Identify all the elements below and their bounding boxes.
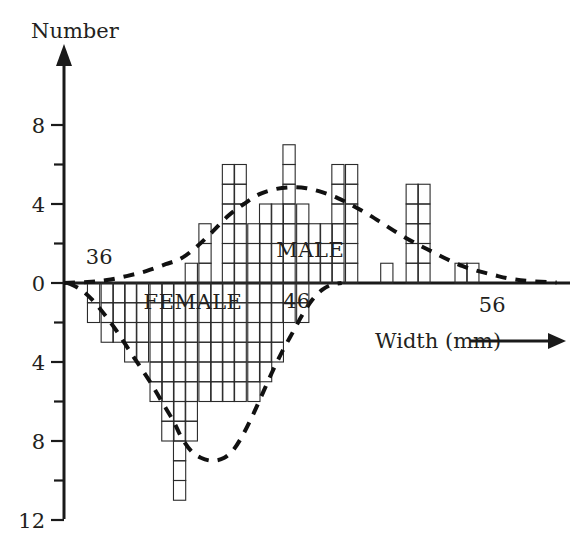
histogram-cell — [136, 342, 148, 362]
chart-annotation-56: 56 — [479, 293, 506, 317]
histogram-cell — [418, 184, 430, 204]
histogram-cell — [260, 204, 272, 224]
histogram-cell — [150, 323, 162, 343]
histogram-cell — [162, 382, 174, 402]
histogram-cell — [271, 283, 283, 303]
histogram-cell — [211, 382, 223, 402]
histogram-cell — [248, 244, 260, 264]
x-axis-label-group: Width (mm) — [375, 329, 566, 353]
histogram-cell — [271, 323, 283, 343]
histogram-cell — [418, 224, 430, 244]
histogram-cell — [113, 283, 125, 303]
histogram-cell — [248, 362, 260, 382]
histogram-cell — [234, 382, 246, 402]
histogram-cell — [162, 362, 174, 382]
histogram-cell — [332, 263, 344, 283]
frequency-curve — [64, 187, 557, 283]
histogram-cell — [406, 184, 418, 204]
arrow-up-icon — [56, 44, 72, 66]
y-axis-ticks — [51, 125, 64, 520]
histogram-cell — [234, 204, 246, 224]
y-axis-label: Number — [31, 19, 120, 43]
histogram-cell — [222, 184, 234, 204]
y-axis-tick-label: 4 — [32, 193, 45, 217]
histogram-cell — [125, 303, 137, 323]
histogram-cell — [271, 303, 283, 323]
histogram-cell — [467, 263, 479, 283]
histogram-cell — [332, 165, 344, 185]
histogram-cell — [418, 263, 430, 283]
histogram-cell — [185, 402, 197, 422]
histogram-cell — [260, 263, 272, 283]
histogram-cell — [234, 362, 246, 382]
histogram-cell — [320, 263, 332, 283]
histogram-cell — [260, 303, 272, 323]
histogram-cell — [222, 244, 234, 264]
histogram-cell — [125, 323, 137, 343]
histogram-cell — [248, 283, 260, 303]
histogram-cell — [101, 283, 113, 303]
histogram-cell — [283, 263, 295, 283]
histogram-cell — [234, 224, 246, 244]
histogram-cell — [234, 323, 246, 343]
histogram-cell — [150, 362, 162, 382]
histogram-cell — [260, 342, 272, 362]
histogram-cell — [87, 303, 99, 323]
histogram-cell — [150, 342, 162, 362]
histogram-cell — [308, 263, 320, 283]
histogram-cell — [406, 244, 418, 264]
back-to-back-histogram-chart: 8404812 Number MALEFEMALE364656 Width (m… — [0, 0, 583, 554]
histogram-cell — [346, 165, 358, 185]
histogram-cell — [234, 165, 246, 185]
histogram-cell — [260, 323, 272, 343]
histogram-cell — [162, 421, 174, 441]
chart-annotation-male: MALE — [276, 238, 344, 262]
histogram-cell — [283, 165, 295, 185]
histogram-cell — [199, 382, 211, 402]
histogram-cell — [113, 303, 125, 323]
histogram-cell — [346, 224, 358, 244]
y-axis-tick-label: 8 — [32, 114, 45, 138]
histogram-cell — [162, 323, 174, 343]
histogram-cell — [271, 263, 283, 283]
histogram-cell — [173, 461, 185, 481]
histogram-cell — [381, 263, 393, 283]
y-axis-tick-labels: 8404812 — [18, 114, 45, 533]
smoothed-frequency-curves — [64, 187, 557, 461]
histogram-cell — [332, 204, 344, 224]
histogram-cell — [185, 263, 197, 283]
histogram-cell — [199, 342, 211, 362]
histogram-cell — [185, 323, 197, 343]
y-axis-tick-label: 12 — [18, 509, 45, 533]
histogram-cell — [271, 204, 283, 224]
histogram-cell — [136, 323, 148, 343]
histogram-cell — [346, 184, 358, 204]
histogram-cell — [199, 263, 211, 283]
y-axis-tick-label: 0 — [32, 272, 45, 296]
histogram-cell — [173, 342, 185, 362]
histogram-cell — [199, 244, 211, 264]
histogram-cell — [260, 283, 272, 303]
histogram-cell — [234, 184, 246, 204]
histogram-cell — [222, 342, 234, 362]
histogram-cell — [260, 224, 272, 244]
histogram-cell — [185, 362, 197, 382]
histogram-cell — [222, 165, 234, 185]
histogram-cell — [222, 323, 234, 343]
histogram-cell — [248, 303, 260, 323]
female-bars-group — [87, 283, 308, 500]
histogram-cell — [173, 481, 185, 501]
y-axis-tick-label: 4 — [32, 351, 45, 375]
histogram-cell — [406, 263, 418, 283]
histogram-cell — [162, 342, 174, 362]
chart-annotation-46: 46 — [283, 289, 310, 313]
y-axis-tick-label: 8 — [32, 430, 45, 454]
histogram-cell — [283, 145, 295, 165]
histogram-cell — [173, 362, 185, 382]
histogram-cell — [234, 244, 246, 264]
histogram-cell — [222, 382, 234, 402]
histogram-cell — [125, 283, 137, 303]
histogram-cell — [406, 204, 418, 224]
histogram-cell — [248, 224, 260, 244]
histogram-cell — [248, 342, 260, 362]
